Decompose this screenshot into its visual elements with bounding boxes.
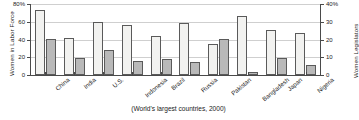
bar-labor-force: [208, 44, 218, 75]
x-axis-label: Nigeria: [315, 76, 335, 94]
x-axis-tick-mark: [45, 72, 46, 75]
x-axis-label: Pakistan: [229, 76, 252, 97]
x-axis-tick-mark: [306, 72, 307, 75]
y-axis-right-tick-mark: [321, 57, 324, 58]
x-axis-label: Russia: [199, 76, 218, 94]
y-axis-left-tick-label: 40: [18, 37, 25, 43]
y-axis-right-tick-mark: [321, 75, 324, 76]
x-axis-label: China: [54, 76, 71, 92]
axis-line-left: [30, 4, 31, 76]
y-axis-left-tick-label: 80%: [13, 1, 25, 7]
bar-group: [204, 4, 233, 75]
bar-legislators: [306, 65, 316, 75]
x-axis-tick-mark: [161, 72, 162, 75]
bar-labor-force: [35, 10, 45, 75]
y-axis-left-tick-label: 60: [18, 19, 25, 25]
chart-caption: (World's largest countries, 2000): [0, 105, 357, 112]
x-axis-tick-mark: [190, 72, 191, 75]
x-axis-label: India: [82, 76, 97, 90]
bar-group: [176, 4, 205, 75]
x-axis-tick-mark: [103, 72, 104, 75]
bar-group: [60, 4, 89, 75]
x-axis-label: Bangladesh: [260, 76, 290, 102]
x-axis-labels: ChinaIndiaU.S.IndonesiaBrazilRussiaPakis…: [31, 76, 320, 106]
x-axis-label: Brazil: [170, 76, 186, 91]
y-axis-right-tick-label: 20: [326, 37, 333, 43]
y-axis-right-tick-label: 10: [326, 54, 333, 60]
bar-labor-force: [295, 33, 305, 75]
bar-legislators: [277, 58, 287, 75]
bar-legislators: [75, 58, 85, 75]
x-axis-tick-mark: [277, 72, 278, 75]
x-axis-tick-mark: [74, 72, 75, 75]
y-axis-right-tick-label: 40%: [326, 1, 338, 7]
bar-group: [262, 4, 291, 75]
bar-labor-force: [179, 23, 189, 75]
y-axis-right-tick-mark: [321, 40, 324, 41]
axis-line-right: [320, 4, 321, 76]
bar-labor-force: [122, 25, 132, 75]
bar-legislators: [133, 61, 143, 75]
bar-labor-force: [64, 38, 74, 75]
bar-labor-force: [266, 30, 276, 75]
bar-group: [31, 4, 60, 75]
bar-group: [118, 4, 147, 75]
bar-group: [291, 4, 320, 75]
bar-legislators: [162, 59, 172, 75]
bar-legislators: [46, 39, 56, 75]
bar-labor-force: [93, 22, 103, 75]
y-axis-left-ticks: 020406080%: [0, 4, 30, 75]
bar-labor-force: [237, 16, 247, 75]
y-axis-right-tick-label: 30: [326, 19, 333, 25]
x-axis-label: U.S.: [111, 76, 125, 89]
y-axis-right-tick-mark: [321, 22, 324, 23]
bar-legislators: [190, 62, 200, 75]
y-axis-right-ticks: 010203040%: [321, 4, 355, 75]
bar-group: [89, 4, 118, 75]
bar-group: [147, 4, 176, 75]
y-axis-right-tick-mark: [321, 4, 324, 5]
y-axis-left-tick-label: 20: [18, 54, 25, 60]
x-axis-label: Indonesia: [143, 76, 168, 99]
bar-legislators: [104, 50, 114, 75]
y-axis-left-tick-label: 0: [22, 72, 25, 78]
plot-area: [31, 4, 320, 75]
x-axis-tick-mark: [132, 72, 133, 75]
bar-legislators: [219, 39, 229, 75]
x-axis-tick-mark: [248, 72, 249, 75]
bar-labor-force: [151, 36, 161, 75]
x-axis-tick-mark: [219, 72, 220, 75]
bar-group: [233, 4, 262, 75]
